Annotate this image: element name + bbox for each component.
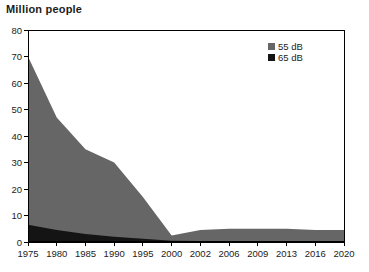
legend-swatch-55db-icon — [268, 43, 275, 50]
svg-text:1995: 1995 — [132, 248, 153, 259]
legend-label-65db: 65 dB — [278, 52, 303, 63]
svg-text:2000: 2000 — [161, 248, 182, 259]
svg-text:20: 20 — [11, 184, 22, 195]
legend-swatch-65db-icon — [268, 54, 275, 61]
svg-text:2009: 2009 — [247, 248, 268, 259]
svg-text:10: 10 — [11, 210, 22, 221]
svg-text:1975: 1975 — [17, 248, 38, 259]
svg-text:2013: 2013 — [276, 248, 297, 259]
legend-label-55db: 55 dB — [278, 41, 303, 52]
noise-exposure-chart: Million people 0102030405060708019751980… — [0, 0, 369, 272]
svg-text:50: 50 — [11, 104, 22, 115]
svg-text:30: 30 — [11, 157, 22, 168]
svg-text:60: 60 — [11, 78, 22, 89]
svg-text:70: 70 — [11, 51, 22, 62]
svg-text:1985: 1985 — [75, 248, 96, 259]
svg-text:40: 40 — [11, 131, 22, 142]
svg-text:1990: 1990 — [104, 248, 125, 259]
legend-item-55db: 55 dB — [268, 41, 303, 52]
svg-text:2002: 2002 — [190, 248, 211, 259]
svg-text:2006: 2006 — [219, 248, 240, 259]
area-chart-plot: 0102030405060708019751980198519901995200… — [0, 0, 369, 272]
chart-legend: 55 dB 65 dB — [268, 41, 303, 63]
svg-text:0: 0 — [17, 237, 22, 248]
svg-text:2016: 2016 — [305, 248, 326, 259]
legend-item-65db: 65 dB — [268, 52, 303, 63]
svg-text:1980: 1980 — [46, 248, 67, 259]
svg-text:2020: 2020 — [333, 248, 354, 259]
svg-text:80: 80 — [11, 25, 22, 36]
